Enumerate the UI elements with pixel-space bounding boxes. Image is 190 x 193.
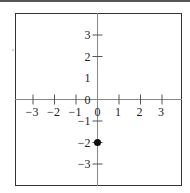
y-tick-label: −2 xyxy=(78,136,91,150)
y-tick-label: −1 xyxy=(78,114,91,128)
x-tick-label: 2 xyxy=(137,105,143,119)
x-ticks: −3−2−10123 xyxy=(26,95,164,119)
y-tick-label: 1 xyxy=(85,71,91,85)
coordinate-plane: −3−2−10123 3210−1−2−3 xyxy=(0,0,190,193)
x-tick-label: −3 xyxy=(26,105,39,119)
x-tick-label: 3 xyxy=(158,105,164,119)
data-point xyxy=(94,139,101,146)
data-points xyxy=(94,139,101,146)
y-tick-label: 3 xyxy=(85,28,91,42)
y-tick-label: −3 xyxy=(78,157,91,171)
x-tick-label: −2 xyxy=(47,105,60,119)
y-tick-label: 0 xyxy=(85,93,91,107)
y-tick-label: 2 xyxy=(85,50,91,64)
x-tick-label: 1 xyxy=(115,105,121,119)
stray-dot xyxy=(12,49,13,50)
x-tick-label: 0 xyxy=(95,105,101,119)
